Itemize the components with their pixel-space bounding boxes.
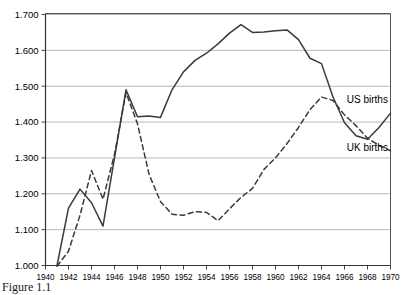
x-axis-tick-label: 1950 bbox=[151, 273, 170, 282]
plot-frame bbox=[46, 14, 391, 266]
series-label-uk-births: UK births bbox=[347, 142, 388, 153]
figure-caption-text: Figure 1.1 bbox=[2, 283, 51, 295]
x-axis-tick-label: 1962 bbox=[289, 273, 308, 282]
x-axis-tick-label: 1966 bbox=[335, 273, 354, 282]
figure-root: 1.7001.6001.5001.4001.3001.2001.1001.000… bbox=[0, 0, 410, 295]
x-axis-tick-label: 1958 bbox=[243, 273, 262, 282]
figure-caption: Figure 1.1 bbox=[0, 283, 410, 295]
x-axis-tick-label: 1940 bbox=[36, 273, 55, 282]
series-label-us-births: US births bbox=[347, 94, 388, 105]
x-axis-tick-label: 1970 bbox=[381, 273, 400, 282]
x-axis-tick-label: 1946 bbox=[105, 273, 124, 282]
y-axis-tick-label: 1.400 bbox=[15, 116, 39, 127]
x-axis-tick-label: 1942 bbox=[59, 273, 78, 282]
gridlines-group bbox=[46, 15, 391, 266]
births-line-chart: 1.7001.6001.5001.4001.3001.2001.1001.000… bbox=[0, 0, 410, 295]
y-axis-tick-label: 1.700 bbox=[15, 9, 39, 20]
series-line-uk-births bbox=[57, 93, 391, 267]
y-axis-tick-label: 1.600 bbox=[15, 45, 39, 56]
y-axis-labels-group: 1.7001.6001.5001.4001.3001.2001.1001.000 bbox=[15, 9, 39, 271]
x-axis-tick-label: 1944 bbox=[82, 273, 101, 282]
y-axis-tick-label: 1.000 bbox=[15, 260, 39, 271]
y-axis-tick-label: 1.200 bbox=[15, 188, 39, 199]
x-axis-tick-label: 1960 bbox=[266, 273, 285, 282]
x-axis-tick-label: 1952 bbox=[174, 273, 193, 282]
x-axis-tick-label: 1948 bbox=[128, 273, 147, 282]
x-axis-labels-group: 1940194219441946194819501952195419561958… bbox=[36, 273, 400, 282]
y-axis-tick-label: 1.100 bbox=[15, 224, 39, 235]
y-axis-tick-label: 1.300 bbox=[15, 152, 39, 163]
x-axis-tick-label: 1956 bbox=[220, 273, 239, 282]
x-axis-tick-label: 1954 bbox=[197, 273, 216, 282]
x-axis-tick-label: 1964 bbox=[312, 273, 331, 282]
y-axis-tick-label: 1.500 bbox=[15, 81, 39, 92]
x-axis-tick-label: 1968 bbox=[358, 273, 377, 282]
